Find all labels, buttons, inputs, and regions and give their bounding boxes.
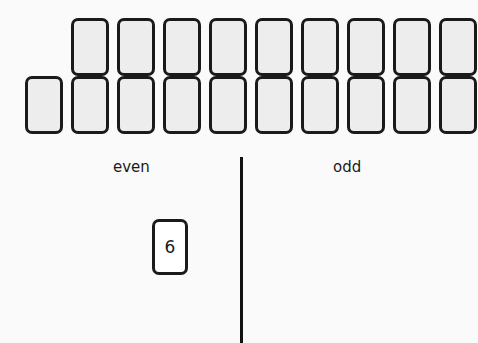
face-down-card[interactable] <box>439 18 477 76</box>
face-down-card[interactable] <box>117 76 155 134</box>
face-down-card[interactable] <box>71 18 109 76</box>
face-down-card[interactable] <box>347 18 385 76</box>
face-down-card[interactable] <box>71 76 109 134</box>
face-down-card[interactable] <box>163 76 201 134</box>
category-label-odd: odd <box>333 160 361 175</box>
played-card-even-side[interactable]: 6 <box>152 219 188 275</box>
face-down-card[interactable] <box>255 76 293 134</box>
face-down-card[interactable] <box>25 76 63 134</box>
face-down-card[interactable] <box>163 18 201 76</box>
face-down-card[interactable] <box>347 76 385 134</box>
card-deck-row-top <box>71 18 477 76</box>
face-down-card[interactable] <box>209 76 247 134</box>
face-down-card[interactable] <box>393 76 431 134</box>
face-down-card[interactable] <box>301 76 339 134</box>
face-down-card[interactable] <box>393 18 431 76</box>
card-deck-row-bottom <box>25 76 477 134</box>
face-down-card[interactable] <box>301 18 339 76</box>
category-label-even: even <box>113 160 150 175</box>
face-down-card[interactable] <box>439 76 477 134</box>
face-down-card[interactable] <box>117 18 155 76</box>
category-divider-line <box>240 157 243 343</box>
face-down-card[interactable] <box>255 18 293 76</box>
played-card-value: 6 <box>165 239 176 256</box>
face-down-card[interactable] <box>209 18 247 76</box>
sorting-activity-stage: even odd 6 <box>0 0 478 343</box>
